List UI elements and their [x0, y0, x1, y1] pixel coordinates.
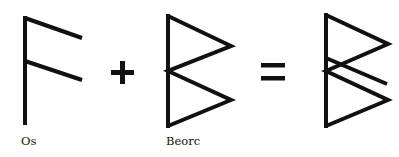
beorc-rune-icon: [168, 14, 231, 128]
equals-operator-icon: [261, 63, 285, 81]
os-rune-icon: [25, 16, 82, 125]
beorc-label: Beorc: [166, 136, 200, 148]
os-label: Os: [21, 136, 36, 148]
combined-rune-icon: [326, 13, 388, 128]
plus-operator-icon: [111, 61, 134, 84]
